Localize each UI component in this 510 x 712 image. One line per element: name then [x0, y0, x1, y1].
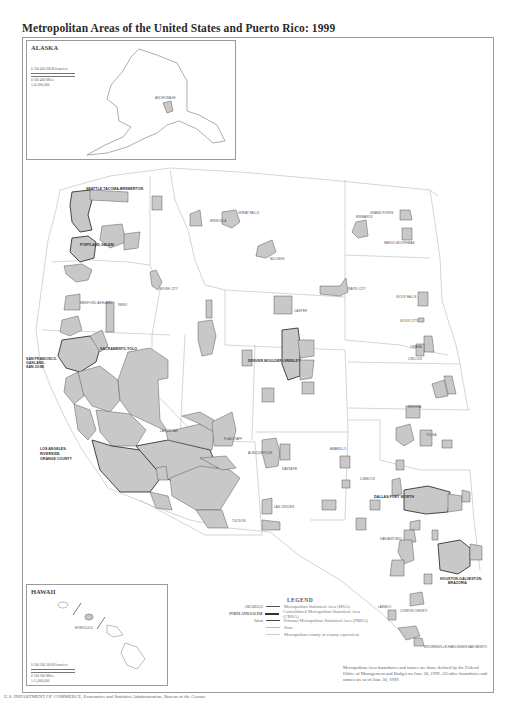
- label-sacramento: SACRAMENTO-YOLO: [100, 347, 137, 351]
- alaska-inset: ALASKA 0 100 400 600 Kilometers 0 300 40…: [26, 40, 236, 160]
- svg-text:CORPUS CHRISTI: CORPUS CHRISTI: [400, 609, 427, 613]
- source-footer: U.S. DEPARTMENT OF COMMERCE, Economics a…: [4, 694, 205, 699]
- legend-line-state: [266, 627, 280, 628]
- boundary-note: Metropolitan Area boundaries and names a…: [343, 665, 491, 684]
- svg-text:OMAHA: OMAHA: [410, 345, 423, 349]
- label-dallas: DALLAS-FORT WORTH: [374, 495, 415, 499]
- svg-text:FLAGSTAFF: FLAGSTAFF: [224, 437, 242, 441]
- hawaii-scale-ratio: 1:15,000,000: [31, 679, 75, 684]
- label-la: LOS ANGELES-: [40, 447, 68, 451]
- svg-text:GREAT FALLS: GREAT FALLS: [238, 211, 259, 215]
- label-la2: RIVERSIDE-: [40, 452, 61, 456]
- svg-text:LINCOLN: LINCOLN: [408, 357, 423, 361]
- svg-text:SANTA FE: SANTA FE: [282, 467, 297, 471]
- legend-line-county: [266, 634, 280, 635]
- legend-label-pmsa: Primary Metropolitan Statistical Area (P…: [284, 618, 368, 623]
- legend-row-cmsa: PORTLAND-SALEM Consolidated Metropolitan…: [225, 610, 375, 617]
- label-seattle: SEATTLE-TACOMA-BREMERTON: [86, 187, 144, 191]
- svg-text:LAS VEGAS: LAS VEGAS: [160, 429, 178, 433]
- svg-text:TUCSON: TUCSON: [232, 519, 246, 523]
- legend-row-county: Metropolitan county or county equivalent: [225, 631, 375, 638]
- svg-text:SIOUX CITY: SIOUX CITY: [400, 319, 419, 323]
- legend-label-cmsa: Consolidated Metropolitan Statistical Ar…: [283, 609, 375, 619]
- label-la3: ORANGE COUNTY: [40, 457, 73, 461]
- legend-key-msa: AMARILLO: [225, 605, 266, 609]
- anchorage-area: [163, 101, 173, 113]
- label-portland: PORTLAND-SALEM: [80, 243, 114, 247]
- legend-label-state: State: [284, 625, 293, 630]
- svg-text:CASPER: CASPER: [294, 309, 308, 313]
- svg-text:RENO: RENO: [118, 303, 128, 307]
- svg-text:BOISE CITY: BOISE CITY: [160, 287, 179, 291]
- legend-row-pmsa: Salem Primary Metropolitan Statistical A…: [225, 617, 375, 624]
- svg-text:LAREDO: LAREDO: [378, 605, 392, 609]
- legend-line-cmsa: [265, 613, 279, 615]
- svg-text:BISMARCK: BISMARCK: [356, 215, 374, 219]
- svg-text:RAPID CITY: RAPID CITY: [348, 287, 367, 291]
- legend-line-pmsa: [266, 620, 280, 621]
- legend-key-pmsa: Salem: [225, 619, 266, 623]
- legend-row-state: State: [225, 624, 375, 631]
- svg-text:SAN ANTONIO: SAN ANTONIO: [380, 537, 402, 541]
- svg-text:ALBUQUERQUE: ALBUQUERQUE: [248, 451, 272, 455]
- hawaii-scale-bar: [31, 669, 75, 673]
- svg-text:WICHITA: WICHITA: [408, 405, 422, 409]
- svg-text:MEDFORD-ASHLAND: MEDFORD-ASHLAND: [80, 301, 113, 305]
- label-sf3: SAN JOSE: [26, 365, 45, 369]
- honolulu-area: [85, 614, 93, 620]
- hawaii-inset: HAWAII HONOLULU 0 100 200 300 Kilometers…: [26, 584, 168, 686]
- svg-text:LUBBOCK: LUBBOCK: [360, 477, 376, 481]
- svg-text:TULSA: TULSA: [426, 433, 437, 437]
- svg-text:GRAND FORKS: GRAND FORKS: [370, 211, 393, 215]
- label-honolulu: HONOLULU: [75, 626, 93, 630]
- svg-text:BROWNSVILLE-HARLINGEN-SAN BENI: BROWNSVILLE-HARLINGEN-SAN BENITO: [424, 645, 488, 649]
- svg-text:BILLINGS: BILLINGS: [270, 257, 284, 261]
- legend-label-county: Metropolitan county or county equivalent: [284, 632, 359, 637]
- label-denver: DENVER-BOULDER-GREELEY: [248, 359, 301, 363]
- svg-text:AMARILLO: AMARILLO: [330, 447, 347, 451]
- legend-key-cmsa: PORTLAND-SALEM: [225, 612, 265, 616]
- svg-text:SIOUX FALLS: SIOUX FALLS: [396, 295, 416, 299]
- hawaii-scale: 0 100 200 300 Kilometers 0 100 200 Miles…: [31, 663, 75, 684]
- hawaii-scale-km: 0 100 200 300 Kilometers: [31, 663, 75, 668]
- svg-text:LAS CRUCES: LAS CRUCES: [274, 505, 294, 509]
- svg-text:MISSOULA: MISSOULA: [210, 219, 227, 223]
- label-houston2: BRAZORIA: [448, 581, 467, 585]
- label-anchorage: ANCHORAGE: [155, 96, 176, 100]
- svg-text:FARGO-MOORHEAD: FARGO-MOORHEAD: [384, 241, 416, 245]
- legend-line-msa: [266, 606, 280, 607]
- alaska-outline: ANCHORAGE: [27, 41, 237, 161]
- legend: LEGEND AMARILLO Metropolitan Statistical…: [225, 597, 375, 638]
